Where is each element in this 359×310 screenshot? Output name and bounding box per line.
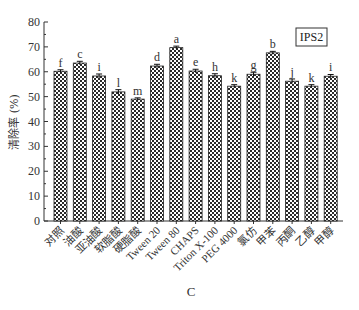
- significance-label: c: [77, 47, 82, 61]
- significance-label: e: [193, 55, 198, 69]
- significance-label: j: [289, 65, 293, 79]
- bar: [112, 92, 125, 221]
- bar: [54, 71, 67, 221]
- legend-label: IPS2: [300, 30, 323, 44]
- significance-label: a: [174, 32, 180, 46]
- legend-box: IPS2: [296, 28, 327, 46]
- y-tick-label: 60: [28, 65, 40, 79]
- y-tick-label: 10: [28, 189, 40, 203]
- significance-label: g: [251, 58, 257, 72]
- y-tick-label: 80: [28, 15, 40, 29]
- y-tick-label: 0: [34, 214, 40, 228]
- significance-label: b: [270, 37, 276, 51]
- bar: [247, 74, 260, 221]
- x-tick-label: 对照: [41, 223, 66, 248]
- bar: [131, 99, 144, 221]
- x-tick-label: 丙酮: [273, 224, 297, 248]
- bar: [170, 48, 183, 221]
- y-tick-label: 20: [28, 164, 40, 178]
- bar: [208, 76, 221, 221]
- significance-label: k: [231, 71, 237, 85]
- x-tick-label: 氯仿: [234, 223, 259, 248]
- x-tick-label: 甲苯: [253, 223, 278, 248]
- y-tick-label: 40: [28, 115, 40, 129]
- bar: [305, 86, 318, 221]
- significance-label: f: [59, 56, 63, 70]
- significance-label: k: [308, 71, 314, 85]
- significance-label: h: [212, 60, 218, 74]
- x-tick-label: 甲醇: [311, 223, 336, 248]
- bar: [228, 86, 241, 221]
- bar: [189, 71, 202, 221]
- x-axis-label: C: [187, 284, 196, 299]
- significance-label: d: [154, 50, 160, 64]
- bar: [151, 66, 164, 221]
- significance-label: m: [133, 84, 143, 98]
- bar: [93, 76, 106, 221]
- y-tick-label: 70: [28, 40, 40, 54]
- y-tick-label: 30: [28, 139, 40, 153]
- significance-label: i: [329, 60, 333, 74]
- bar-chart: 01020304050607080 f对照c油酸i亚油酸l软脂酸m硬脂酸dTwe…: [0, 0, 359, 310]
- bar: [286, 81, 299, 221]
- y-tick-label: 50: [28, 90, 40, 104]
- bar: [266, 53, 279, 221]
- significance-label: l: [117, 76, 121, 90]
- significance-label: i: [97, 60, 101, 74]
- y-axis-label: 清除率 (%): [7, 94, 21, 150]
- x-tick-label: 乙醇: [292, 223, 317, 248]
- bar: [324, 76, 337, 221]
- bar: [73, 63, 86, 221]
